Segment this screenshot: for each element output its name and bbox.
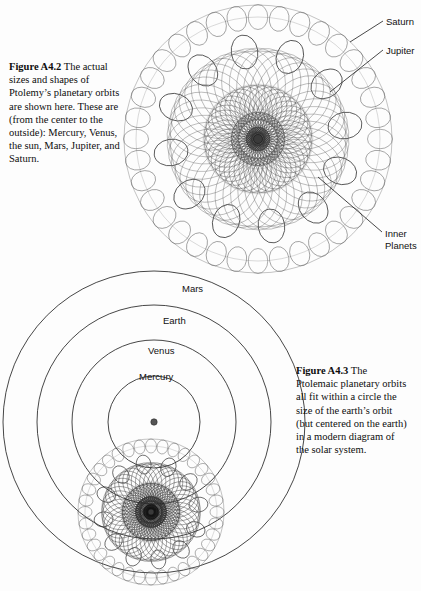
epicycle xyxy=(182,49,224,92)
epicycle xyxy=(166,566,181,583)
epicycle xyxy=(99,501,146,543)
epicycle xyxy=(195,44,276,133)
epicycle xyxy=(101,494,142,527)
epicycle xyxy=(242,82,293,139)
epicycle xyxy=(231,142,276,196)
epicycle xyxy=(193,461,211,478)
epicycle xyxy=(203,239,230,269)
epicycle xyxy=(245,111,268,139)
epicycle xyxy=(102,530,126,553)
epicycle xyxy=(139,518,179,564)
epicycle xyxy=(240,142,284,195)
epicycle xyxy=(147,504,154,512)
epicycle xyxy=(245,139,268,167)
epicycle xyxy=(248,139,271,167)
epicycle xyxy=(149,511,158,520)
epicycle xyxy=(145,511,160,529)
epicycle xyxy=(185,554,202,572)
epicycle xyxy=(231,113,264,146)
epicycle xyxy=(137,185,168,214)
epicycle xyxy=(176,470,200,493)
epicycle xyxy=(239,145,277,193)
epicycle xyxy=(321,30,352,62)
epicycle xyxy=(348,63,379,92)
epicycle xyxy=(266,81,353,159)
epicycle xyxy=(292,186,334,229)
epicycle xyxy=(225,245,249,273)
epicycle xyxy=(125,508,157,541)
epicycle xyxy=(188,496,209,514)
epicycle xyxy=(135,508,154,526)
label-inner-planets-line1: Inner xyxy=(385,228,417,240)
epicycle-band-mars xyxy=(163,44,353,234)
epicycle xyxy=(252,132,285,165)
epicycle xyxy=(145,483,177,516)
epicycle xyxy=(135,454,153,475)
epicycle xyxy=(254,126,266,140)
orbit-label-mars: Mars xyxy=(182,283,203,294)
epicycle xyxy=(85,537,103,553)
epicycle xyxy=(143,506,152,514)
epicycle xyxy=(102,506,151,554)
epicycle xyxy=(244,140,330,231)
epicycle xyxy=(148,467,197,516)
epicycle xyxy=(166,106,241,166)
epicycle xyxy=(78,517,94,530)
deferent-sun xyxy=(135,496,167,528)
epicycle xyxy=(248,5,268,30)
epicycle xyxy=(257,124,286,149)
epicycle xyxy=(135,506,151,519)
epicycle xyxy=(139,495,156,514)
epicycle xyxy=(165,113,241,175)
epicycle xyxy=(154,503,203,548)
epicycle xyxy=(113,513,159,562)
epicycle xyxy=(254,137,267,152)
epicycle xyxy=(241,110,268,141)
epicycle xyxy=(275,112,350,172)
figure-a42-caption-text: The actual sizes and shapes of Ptolemy’s… xyxy=(9,61,120,164)
epicycle xyxy=(164,73,254,156)
epicycle xyxy=(173,132,264,222)
epicycle xyxy=(129,482,159,514)
epicycle xyxy=(252,56,343,146)
epicycle-band-jupiter xyxy=(152,33,364,245)
epicycle xyxy=(149,511,157,520)
epicycle xyxy=(140,483,161,510)
epicycle xyxy=(141,515,162,542)
epicycle xyxy=(142,512,169,543)
epicycle xyxy=(144,512,157,528)
epicycle-band-sun xyxy=(120,481,181,542)
epicycle xyxy=(147,509,165,528)
a42-earth-center xyxy=(254,135,263,144)
epicycle xyxy=(251,126,262,139)
epicycle xyxy=(153,502,181,525)
epicycle xyxy=(185,453,202,471)
epicycle xyxy=(247,136,262,151)
epicycle xyxy=(146,495,163,514)
epicycle xyxy=(149,507,168,524)
epicycle-band-venus xyxy=(229,110,287,167)
epicycle xyxy=(108,464,156,513)
epicycle xyxy=(319,152,360,189)
epicycle xyxy=(237,110,267,142)
epicycle xyxy=(163,94,244,163)
epicycle xyxy=(179,136,268,227)
epicycle xyxy=(149,504,157,513)
epicycle xyxy=(121,503,150,528)
epicycle-band-saturn xyxy=(124,5,393,274)
epicycle xyxy=(118,516,161,564)
epicycle xyxy=(262,122,352,205)
epicycle xyxy=(233,45,298,123)
epicycle xyxy=(364,148,392,172)
epicycle xyxy=(204,120,252,158)
epicycle xyxy=(252,128,313,187)
epicycle xyxy=(210,507,224,518)
epicycle xyxy=(135,462,166,501)
epicycle xyxy=(124,129,149,149)
epicycle xyxy=(250,134,282,167)
epicycle xyxy=(136,508,155,527)
epicycle xyxy=(146,504,154,513)
epicycle xyxy=(201,97,261,152)
epicycle xyxy=(120,503,151,530)
epicycle xyxy=(258,123,315,174)
